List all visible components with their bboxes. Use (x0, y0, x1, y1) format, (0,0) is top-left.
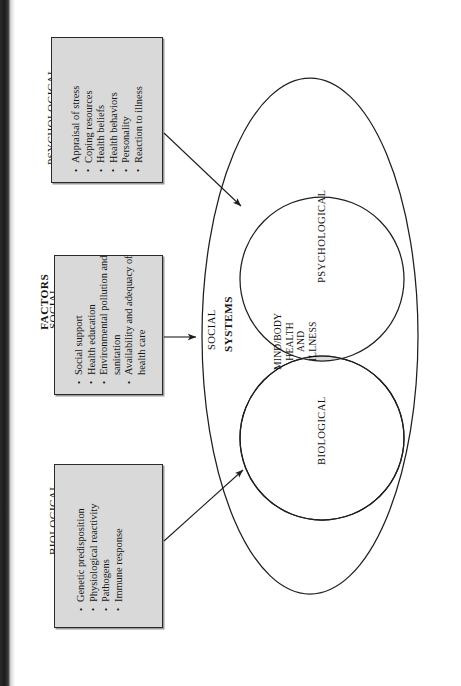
list-item: Physiological reactivity (88, 504, 101, 611)
systems-heading: SYSTEMS (222, 296, 234, 352)
social-factors-list: Social support Health education Environm… (73, 255, 149, 384)
list-item: Environmental pollution and (98, 255, 111, 384)
list-item: Health behaviors (108, 86, 121, 172)
list-item: Pathogens (100, 504, 113, 611)
scan-edge-band (0, 0, 11, 686)
psychological-factors-list: Appraisal of stress Coping resources Hea… (70, 86, 146, 172)
label-circle-biological: BIOLOGICAL (316, 396, 327, 465)
list-item: Coping resources (83, 86, 96, 172)
biological-factors-box[interactable]: Genetic predisposition Physiological rea… (54, 464, 163, 628)
list-item: Reaction to illness (133, 86, 146, 172)
list-item: Availability and adequacy of (123, 255, 136, 384)
list-item: Genetic predisposition (75, 504, 88, 611)
label-intersection-line: ILLNESS (307, 313, 319, 370)
diagram-page: FACTORS PSYCHOLOGICAL Appraisal of stres… (0, 0, 461, 686)
list-item: Health education (86, 255, 99, 384)
scan-edge-gradient (11, 0, 15, 686)
list-item: Health beliefs (95, 86, 108, 172)
list-item-continuation: sanitation (111, 255, 124, 384)
label-intersection: MIND/BODY HEALTH AND ILLNESS (272, 313, 318, 370)
label-intersection-line: MIND/BODY (272, 313, 284, 370)
psychological-factors-box[interactable]: Appraisal of stress Coping resources Hea… (51, 37, 163, 183)
list-item: Appraisal of stress (70, 86, 83, 172)
list-item: Social support (73, 255, 86, 384)
label-outer-social: SOCIAL (206, 309, 217, 350)
label-circle-psychological: PSYCHOLOGICAL (316, 190, 327, 284)
social-factors-box[interactable]: Social support Health education Environm… (54, 255, 163, 395)
label-intersection-line: AND (295, 313, 307, 370)
list-item: Immune response (113, 504, 126, 611)
label-intersection-line: HEALTH (284, 313, 296, 370)
list-item: Personality (120, 86, 133, 172)
biological-factors-list: Genetic predisposition Physiological rea… (75, 504, 125, 611)
list-item-continuation: health care (136, 255, 149, 384)
